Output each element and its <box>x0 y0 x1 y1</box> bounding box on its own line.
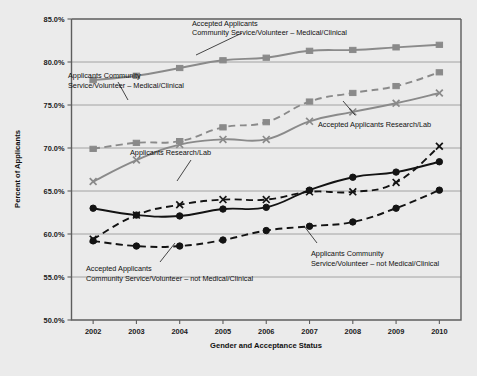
annotation-line-1: Applicants Community <box>68 71 141 80</box>
x-tick-label: 2010 <box>431 327 447 336</box>
annotation-line-1: Accepted Applicants <box>192 19 258 28</box>
annotation-line-1: Accepted Applicants Research/Lab <box>318 120 431 129</box>
line-chart-svg: 50.0%55.0%60.0%65.0%70.0%75.0%80.0%85.0%… <box>0 0 477 376</box>
annotation-line-2: Community Service/Volunteer – not Medica… <box>86 274 253 283</box>
y-tick-label: 65.0% <box>44 187 65 196</box>
data-point-marker <box>176 213 182 219</box>
data-point-marker <box>350 47 356 52</box>
y-tick-label: 70.0% <box>44 144 65 153</box>
data-point-marker <box>393 45 399 50</box>
y-tick-label: 50.0% <box>44 316 65 325</box>
y-tick-label: 75.0% <box>44 101 65 110</box>
data-point-marker <box>263 227 269 233</box>
data-point-marker <box>436 159 442 165</box>
annotation-line-1: Accepted Applicants <box>86 264 152 273</box>
annotation-accepted-research-lab: Accepted Applicants Research/Lab <box>318 120 431 129</box>
y-tick-label: 85.0% <box>44 15 65 24</box>
data-point-marker <box>436 42 442 47</box>
chart-figure: 50.0%55.0%60.0%65.0%70.0%75.0%80.0%85.0%… <box>0 0 477 376</box>
data-point-marker <box>133 140 139 145</box>
data-point-marker <box>220 237 226 243</box>
data-point-marker <box>393 83 399 88</box>
data-point-marker <box>436 187 442 193</box>
data-point-marker <box>306 99 312 104</box>
y-axis-title: Percent of Applicants <box>13 130 22 208</box>
data-point-marker <box>393 205 399 211</box>
data-point-marker <box>220 206 226 212</box>
data-point-marker <box>350 90 356 95</box>
data-point-marker <box>220 125 226 130</box>
data-point-marker <box>176 243 182 249</box>
annotation-line-2: Service/Volunteer – Medical/Clinical <box>68 81 184 90</box>
annotation-line-1: Applicants Community <box>311 249 384 258</box>
data-point-marker <box>263 204 269 210</box>
data-point-marker <box>350 174 356 180</box>
data-point-marker <box>90 146 96 151</box>
chart-canvas: 50.0%55.0%60.0%65.0%70.0%75.0%80.0%85.0%… <box>0 0 477 376</box>
x-tick-label: 2005 <box>215 327 231 336</box>
y-tick-label: 55.0% <box>44 273 65 282</box>
data-point-marker <box>176 65 182 70</box>
annotation-line-1: Applicants Research/Lab <box>130 148 211 157</box>
x-tick-label: 2004 <box>171 327 188 336</box>
x-tick-label: 2009 <box>388 327 404 336</box>
data-point-marker <box>133 212 139 218</box>
annotation-line-2: Community Service/Volunteer – Medical/Cl… <box>192 28 347 37</box>
y-tick-label: 80.0% <box>44 58 65 67</box>
x-tick-label: 2008 <box>345 327 361 336</box>
data-point-marker <box>306 187 312 193</box>
data-point-marker <box>90 238 96 244</box>
y-tick-label: 60.0% <box>44 230 65 239</box>
x-tick-label: 2006 <box>258 327 274 336</box>
annotation-applicants-research-lab: Applicants Research/Lab <box>130 148 211 157</box>
data-point-marker <box>306 48 312 53</box>
annotation-line-2: Service/Volunteer – not Medical/Clinical <box>311 259 440 268</box>
data-point-marker <box>133 243 139 249</box>
data-point-marker <box>436 70 442 75</box>
data-point-marker <box>263 55 269 60</box>
data-point-marker <box>220 58 226 63</box>
x-tick-label: 2007 <box>301 327 317 336</box>
data-point-marker <box>263 120 269 125</box>
x-tick-label: 2002 <box>85 327 101 336</box>
data-point-marker <box>350 219 356 225</box>
data-point-marker <box>306 223 312 229</box>
data-point-marker <box>90 205 96 211</box>
x-tick-label: 2003 <box>128 327 144 336</box>
x-axis-title: Gender and Acceptance Status <box>210 341 322 350</box>
data-point-marker <box>393 169 399 175</box>
